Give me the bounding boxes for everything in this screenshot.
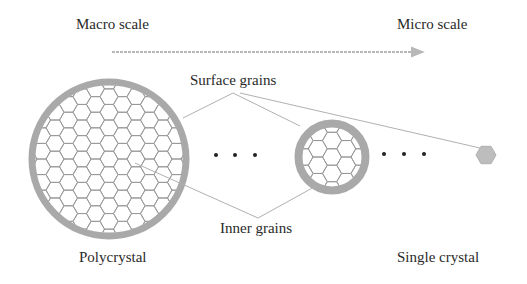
polycrystal-hex-grid — [19, 73, 199, 244]
intermediate-hex-grid — [294, 116, 370, 198]
single-crystal-label: Single crystal — [397, 250, 479, 265]
polycrystal-label: Polycrystal — [79, 250, 147, 265]
crystal-scale-diagram — [0, 0, 527, 284]
inner-grains-leaders — [135, 163, 316, 218]
macro-scale-label: Macro scale — [76, 17, 149, 32]
intermediate-surface-ring — [299, 124, 366, 191]
single-crystal-hexagon — [476, 146, 496, 163]
surface-grains-label: Surface grains — [190, 73, 276, 88]
polycrystal-surface-ring — [32, 82, 186, 236]
ellipsis-left — [214, 153, 257, 157]
micro-scale-label: Micro scale — [397, 17, 467, 32]
inner-grains-label: Inner grains — [220, 221, 292, 236]
ellipsis-right — [382, 152, 426, 156]
